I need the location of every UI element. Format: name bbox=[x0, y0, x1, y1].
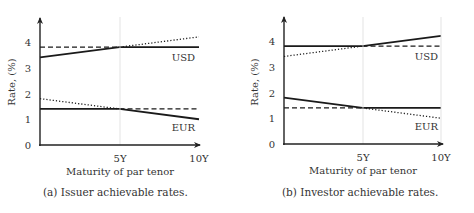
x-tick-10y: 10Y bbox=[431, 152, 451, 163]
y-tick-4: 4 bbox=[25, 37, 31, 48]
y-tick-0: 0 bbox=[25, 140, 31, 151]
eur-dotted-line bbox=[40, 99, 120, 109]
figure: 0 1 2 3 4 5Y 10Y Maturity of par tenor R… bbox=[0, 0, 474, 213]
eur-solid-line bbox=[284, 98, 441, 108]
x-axis-label: Maturity of par tenor bbox=[66, 166, 174, 177]
y-tick-0: 0 bbox=[269, 139, 275, 150]
series-b bbox=[284, 36, 441, 118]
y-axis-label: Rate, (%) bbox=[6, 58, 17, 105]
y-tick-2: 2 bbox=[269, 88, 275, 99]
usd-dotted-line bbox=[120, 37, 200, 47]
chart-b: 0 1 2 3 4 5Y 10Y Maturity of par tenor R… bbox=[249, 17, 451, 176]
y-tick-3: 3 bbox=[25, 63, 31, 74]
eur-label: EUR bbox=[415, 121, 439, 132]
x-tick-5y: 5Y bbox=[357, 152, 370, 163]
y-axis-label: Rate, (%) bbox=[249, 58, 260, 105]
usd-label: USD bbox=[415, 51, 438, 62]
usd-solid-line bbox=[284, 36, 441, 46]
y-tick-3: 3 bbox=[269, 62, 275, 73]
y-tick-1: 1 bbox=[269, 113, 275, 124]
caption-a: (a) Issuer achievable rates. bbox=[43, 186, 188, 198]
chart-a: 0 1 2 3 4 5Y 10Y Maturity of par tenor R… bbox=[6, 17, 209, 177]
y-tick-4: 4 bbox=[269, 36, 275, 47]
eur-solid-line bbox=[40, 109, 199, 119]
usd-dotted-line bbox=[284, 46, 363, 56]
usd-label: USD bbox=[172, 52, 195, 63]
x-tick-5y: 5Y bbox=[114, 153, 127, 164]
y-tick-2: 2 bbox=[25, 89, 31, 100]
series-a bbox=[40, 37, 199, 119]
caption-b: (b) Investor achievable rates. bbox=[282, 186, 438, 198]
eur-label: EUR bbox=[172, 122, 196, 133]
eur-dotted-line bbox=[363, 108, 442, 118]
x-tick-10y: 10Y bbox=[189, 153, 209, 164]
x-axis-label: Maturity of par tenor bbox=[309, 165, 417, 176]
y-tick-1: 1 bbox=[25, 114, 31, 125]
